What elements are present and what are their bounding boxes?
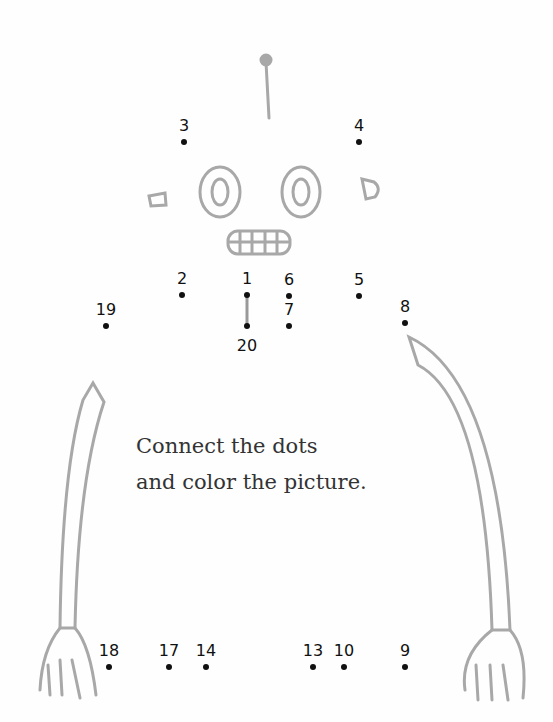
connect-dot <box>244 323 250 329</box>
connect-dot <box>106 664 112 670</box>
connect-dot <box>181 139 187 145</box>
connect-dot <box>402 320 408 326</box>
dot-number: 18 <box>99 643 119 659</box>
dot-number: 20 <box>237 338 257 354</box>
instruction-line-2: and color the picture. <box>136 464 367 500</box>
dot-number: 19 <box>96 302 116 318</box>
connect-dot <box>179 292 185 298</box>
dot-number: 17 <box>159 643 179 659</box>
dot-number: 5 <box>354 272 364 288</box>
dot-number: 2 <box>177 271 187 287</box>
eyes-icon <box>200 167 320 217</box>
mouth-icon <box>228 231 290 254</box>
connect-dot <box>286 323 292 329</box>
connect-dot <box>356 139 362 145</box>
dot-number: 10 <box>334 643 354 659</box>
dot-number: 6 <box>284 272 294 288</box>
right-arm-icon <box>409 337 524 700</box>
robot-drawing <box>0 0 553 722</box>
dot-number: 1 <box>242 271 252 287</box>
connect-dot <box>356 293 362 299</box>
dot-number: 9 <box>400 643 410 659</box>
connect-dot <box>103 323 109 329</box>
worksheet-page: 12345678910131417181920 Connect the dots… <box>0 0 553 722</box>
connect-dot <box>244 292 250 298</box>
dot-number: 14 <box>196 643 216 659</box>
dot-number: 13 <box>303 643 323 659</box>
connect-dot <box>402 664 408 670</box>
dot-number: 8 <box>400 299 410 315</box>
instructions-text: Connect the dots and color the picture. <box>136 428 367 500</box>
instruction-line-1: Connect the dots <box>136 428 367 464</box>
connect-dot <box>166 664 172 670</box>
connect-dot <box>203 664 209 670</box>
dot-number: 4 <box>354 118 364 134</box>
connect-dot <box>341 664 347 670</box>
antenna-icon <box>261 55 271 118</box>
connect-dot <box>310 664 316 670</box>
dot-number: 3 <box>179 118 189 134</box>
ears-icon <box>149 179 378 206</box>
connect-dot <box>286 293 292 299</box>
dot-number: 7 <box>284 302 294 318</box>
left-arm-icon <box>40 383 104 698</box>
